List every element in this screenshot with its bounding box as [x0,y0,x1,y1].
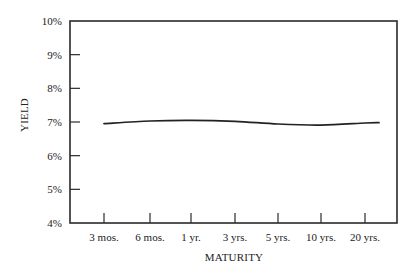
x-tick-label: 3 yrs. [223,231,248,243]
x-tick-label: 10 yrs. [306,231,336,243]
x-tick-label: 1 yr. [181,231,201,243]
x-tick-label: 5 yrs. [266,231,291,243]
x-tick-label: 6 mos. [135,231,165,243]
y-axis-tick-labels: 4%5%6%7%8%9%10% [42,15,62,229]
x-axis-title: MATURITY [205,251,263,263]
y-tick-label: 5% [47,183,62,195]
x-axis-tick-labels: 3 mos.6 mos.1 yr.3 yrs.5 yrs.10 yrs.20 y… [89,231,380,243]
yield-curve-line [104,120,379,125]
y-tick-label: 7% [47,116,62,128]
y-tick-label: 10% [42,15,62,27]
y-tick-label: 8% [47,82,62,94]
y-tick-label: 6% [47,150,62,162]
x-axis-ticks [104,213,365,223]
y-axis-ticks [70,55,80,190]
x-tick-label: 3 mos. [89,231,119,243]
y-tick-label: 4% [47,217,62,229]
y-axis-title: YIELD [18,98,30,132]
yield-curve-chart: 4%5%6%7%8%9%10% 3 mos.6 mos.1 yr.3 yrs.5… [0,0,417,275]
x-tick-label: 20 yrs. [350,231,380,243]
y-tick-label: 9% [47,49,62,61]
